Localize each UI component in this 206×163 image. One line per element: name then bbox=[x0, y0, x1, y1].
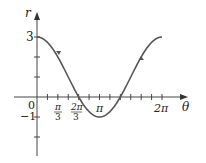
r-axis-label: r bbox=[25, 6, 32, 20]
x-tick-label-pi-over-3-den: 3 bbox=[55, 112, 61, 122]
polar-function-graph: r θ 3 0 −1 π 3 2π 3 π 2π bbox=[0, 0, 206, 163]
y-tick-label-3: 3 bbox=[26, 30, 34, 44]
x-tick-label-2pi: 2π bbox=[153, 102, 169, 115]
axes bbox=[14, 18, 184, 156]
y-tick-label-minus-1: −1 bbox=[20, 110, 36, 123]
x-tick-label-2pi-over-3-num: 2π bbox=[70, 102, 84, 112]
x-tick-label-pi-over-3-num: π bbox=[54, 102, 62, 112]
y-axis-arrow-icon bbox=[34, 12, 40, 20]
x-tick-label-2pi-over-3-den: 3 bbox=[73, 112, 79, 122]
theta-axis-label: θ bbox=[182, 100, 190, 114]
x-tick-label-pi: π bbox=[95, 102, 104, 115]
